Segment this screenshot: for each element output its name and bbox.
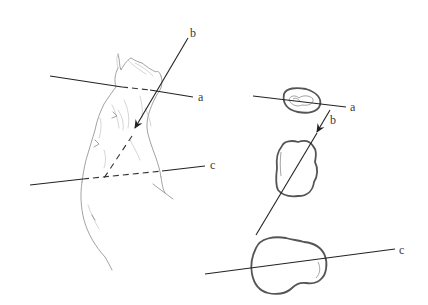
plane-a-left: a	[50, 76, 204, 104]
plane-c-left: c	[30, 158, 215, 185]
sectioning-diagram: a b c a	[0, 0, 428, 305]
label-b-left: b	[190, 26, 196, 40]
label-a-right: a	[350, 100, 356, 114]
plane-b-left: b	[104, 26, 196, 178]
label-b-right: b	[330, 113, 336, 127]
label-a-left: a	[198, 90, 204, 104]
label-c-left: c	[210, 158, 215, 172]
left-panel: a b c	[30, 26, 215, 270]
label-c-right: c	[399, 243, 404, 257]
right-panel: a b c	[205, 88, 404, 294]
cross-section-c	[251, 237, 326, 294]
cross-section-b	[276, 141, 317, 196]
